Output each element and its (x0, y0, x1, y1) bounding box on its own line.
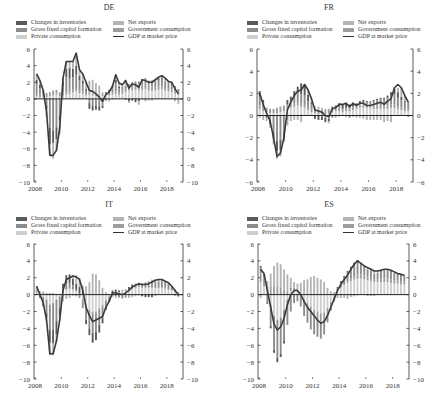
bar-segment (353, 279, 355, 294)
bar-segment (373, 279, 375, 282)
bar-segment (330, 295, 332, 303)
bar-segment (377, 279, 379, 282)
bar-segment (72, 77, 74, 89)
bar-segment (296, 288, 298, 289)
bar-segment (383, 106, 385, 109)
y-tick-label: −4 (187, 325, 195, 333)
bar-segment (164, 288, 166, 289)
y-tick-label: −4 (246, 156, 254, 164)
bar-segment (56, 127, 58, 139)
bar-segment (293, 282, 295, 288)
bar-segment (273, 286, 275, 294)
bar-segment (327, 288, 329, 295)
bar-segment (151, 86, 153, 90)
bar-segment (52, 330, 54, 344)
bar-segment (95, 106, 97, 110)
bar-segment (85, 320, 87, 324)
bar-segment (338, 107, 340, 108)
bar-segment (407, 102, 409, 109)
bar-segment (98, 86, 100, 95)
bar-segment (72, 90, 74, 92)
bar-segment (376, 109, 378, 116)
y-tick-label: 6 (187, 241, 191, 249)
bar-segment (342, 109, 344, 112)
bar-segment (393, 280, 395, 283)
bar-segment (300, 116, 302, 123)
y-tick-label: −2 (246, 134, 254, 142)
bar-segment (88, 282, 90, 295)
bar-segment (376, 106, 378, 109)
bar-segment (168, 91, 170, 98)
bar-segment (355, 109, 357, 116)
bar-segment (387, 270, 389, 278)
bar-segment (360, 279, 362, 295)
bar-segment (310, 295, 312, 307)
bar-segment (283, 290, 285, 295)
bar-segment (403, 285, 405, 295)
bar-segment (293, 295, 295, 303)
y-tick-label: 0 (27, 291, 31, 299)
bar-segment (353, 265, 355, 276)
bar-segment (357, 279, 359, 295)
y-tick-label: −6 (413, 342, 421, 350)
bar-segment (393, 273, 395, 281)
bar-segment (151, 288, 153, 295)
bar-segment (390, 283, 392, 295)
bar-segment (352, 107, 354, 110)
bar-segment (161, 281, 163, 287)
bar-segment (69, 78, 71, 91)
bar-segment (92, 106, 94, 111)
bar-segment (121, 91, 123, 94)
bar-segment (338, 108, 340, 111)
y-tick-label: 6 (187, 46, 191, 54)
bar-segment (75, 291, 77, 294)
bar-segment (161, 287, 163, 288)
bar-segment (400, 100, 402, 108)
bar-segment (380, 106, 382, 109)
bar-segment (266, 303, 268, 304)
bar-segment (307, 279, 309, 294)
bar-segment (79, 76, 81, 81)
bar-segment (352, 110, 354, 116)
bar-segment (343, 295, 345, 298)
bar-segment (88, 92, 90, 94)
x-tick-label: 2016 (362, 185, 377, 193)
bar-segment (290, 116, 292, 122)
bar-segment (52, 130, 54, 142)
bar-segment (286, 290, 288, 294)
bar-segment (387, 279, 389, 282)
bar-segment (115, 94, 117, 99)
bar-segment (65, 92, 67, 94)
bar-segment (310, 277, 312, 295)
bar-segment (82, 299, 84, 302)
bar-segment (118, 290, 120, 292)
bar-segment (102, 106, 104, 108)
bar-segment (349, 111, 351, 115)
bar-segment (102, 94, 104, 96)
bar-segment (158, 79, 160, 81)
bar-segment (260, 266, 262, 268)
bar-segment (357, 274, 359, 278)
y-tick-label: 6 (413, 241, 417, 249)
bar-segment (151, 287, 153, 288)
bar-segment (69, 94, 71, 99)
bar-segment (328, 121, 330, 123)
bar-segment (65, 95, 67, 99)
bar-segment (144, 100, 146, 102)
bar-segment (304, 106, 306, 108)
bar-segment (362, 100, 364, 102)
y-tick-label: 4 (27, 257, 31, 265)
bar-segment (327, 295, 329, 309)
bar-segment (373, 282, 375, 295)
bar-segment (138, 287, 140, 295)
y-tick-label: −8 (413, 359, 421, 367)
x-tick-label: 2010 (54, 382, 69, 390)
bar-segment (387, 109, 389, 116)
bar-segment (65, 69, 67, 77)
y-tick-label: −2 (187, 308, 195, 316)
bar-segment (112, 92, 114, 94)
bar-segment (102, 318, 104, 323)
bar-segment (102, 92, 104, 94)
bar-segment (324, 110, 326, 114)
bar-segment (56, 95, 58, 99)
